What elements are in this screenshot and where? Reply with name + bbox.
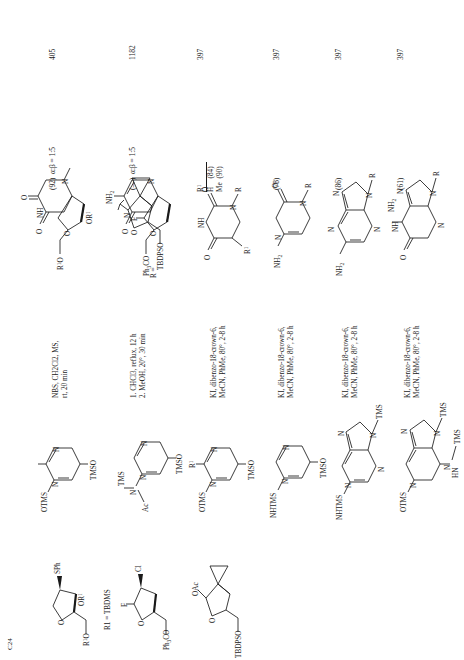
product-structure-row4: N N O NH2 R: [258, 148, 328, 278]
svg-text:O: O: [36, 229, 44, 234]
substrate-note-row1: R1 = TBDMS: [104, 589, 112, 630]
svg-text:N: N: [370, 432, 378, 438]
svg-text:O: O: [58, 620, 66, 625]
svg-text:N: N: [338, 430, 346, 436]
svg-text:NH2: NH2: [106, 191, 115, 204]
svg-text:NH2: NH2: [388, 199, 397, 212]
substrate-structure-row3: O TBDPSO OAc: [196, 528, 262, 646]
svg-text:TMS: TMS: [454, 429, 462, 444]
svg-text:TBDPSO: TBDPSO: [235, 630, 243, 658]
svg-text:HN: HN: [452, 467, 460, 478]
conditions-row1: NBS, CH2Cl2, MS, rt, 20 min: [52, 341, 71, 398]
svg-text:N: N: [444, 464, 452, 470]
svg-text:O: O: [209, 618, 217, 623]
yield-row6: (61): [396, 178, 405, 190]
svg-text:N: N: [438, 222, 446, 228]
svg-text:R: R: [369, 173, 377, 178]
svg-text:O: O: [21, 195, 29, 200]
svg-text:N: N: [53, 446, 61, 452]
ref-row5: 397: [334, 49, 343, 60]
subtable-yield-value: (90): [216, 162, 225, 178]
svg-text:R1: R1: [188, 460, 198, 468]
svg-text:OTMS: OTMS: [41, 492, 49, 512]
svg-text:TMSO: TMSO: [248, 460, 256, 480]
svg-text:OTMS: OTMS: [199, 492, 207, 512]
subtable-r1-value: H: [207, 178, 217, 192]
svg-text:O: O: [131, 230, 139, 235]
series-label: C24: [6, 638, 14, 650]
svg-text:TMSO: TMSO: [90, 460, 98, 480]
substrate-structure-row1: O R1O SPh OR1: [40, 534, 102, 646]
svg-text:TMS: TMS: [118, 471, 126, 486]
svg-text:R1: R1: [243, 246, 253, 254]
svg-text:Cl: Cl: [135, 565, 143, 572]
conditions-row6: KI, dibenzo-18-crown-6, MeCN, PhMe, 80°,…: [404, 325, 423, 398]
svg-text:N: N: [283, 444, 291, 450]
svg-text:R1O: R1O: [56, 257, 66, 270]
svg-text:R: R: [433, 171, 441, 176]
svg-text:NHTMS: NHTMS: [270, 493, 278, 518]
svg-text:N: N: [328, 226, 336, 232]
svg-text:OR1: OR1: [85, 211, 95, 224]
product-structure-row1: NH N O O O OR1 R1O: [24, 128, 112, 278]
ref-row6: 397: [396, 49, 405, 60]
ref-row2: 1182: [128, 45, 137, 60]
ref-row4: 397: [272, 49, 281, 60]
svg-text:Ac: Ac: [142, 504, 150, 512]
conditions-row4: KI, dibenzo-18-crown-6, MeCN, PhMe, 80°,…: [278, 325, 297, 398]
conditions-row3: KI, dibenzo-18-crown-6, MeCN, PhMe, 80°,…: [210, 325, 229, 398]
svg-text:N: N: [374, 226, 382, 232]
subtable-row: H (84): [207, 162, 217, 192]
conditions-row5: KI, dibenzo-18-crown-6, MeCN, PhMe, 80°,…: [342, 325, 361, 398]
conditions-row2: 1. CHCl3, reflux, 12 h 2. MeOH, 20°, 30 …: [130, 333, 149, 398]
svg-text:N: N: [333, 190, 341, 196]
svg-text:N: N: [378, 466, 386, 472]
svg-text:TMS: TMS: [376, 404, 384, 419]
svg-text:R: R: [305, 183, 313, 188]
reagent-structure-row4: N N NHTMS TMSO: [262, 408, 328, 514]
ref-row3: 397: [196, 49, 205, 60]
reagent-structure-row3: N N OTMS R1 TMSO: [192, 408, 258, 514]
svg-text:R: R: [235, 187, 243, 192]
subtable-header-r1: R1: [196, 178, 207, 192]
svg-text:NH: NH: [198, 218, 206, 228]
svg-text:N: N: [366, 192, 374, 198]
svg-text:O: O: [138, 621, 146, 626]
svg-text:N: N: [211, 446, 219, 452]
svg-text:OTMS: OTMS: [400, 492, 408, 512]
svg-text:O: O: [204, 255, 212, 260]
svg-text:F: F: [121, 603, 129, 607]
subtable-header-yield: [196, 162, 207, 178]
svg-text:N: N: [141, 440, 149, 446]
svg-text:TMSO: TMSO: [176, 454, 184, 474]
yield-subtable-row3: R1 H (84) Me (90): [196, 162, 225, 192]
subtable-r1-value: Me: [216, 178, 225, 192]
r-definition-structure: O TBDPSO: [118, 136, 172, 256]
subtable-yield-value: (84): [207, 162, 217, 178]
svg-text:NHTMS: NHTMS: [336, 495, 344, 520]
yield-row1: (92) α:β = 1:5: [48, 147, 57, 190]
product-structure-row6: NH N O NH2 N N R: [382, 138, 458, 278]
svg-text:N: N: [430, 190, 438, 196]
svg-text:O: O: [400, 255, 408, 260]
svg-text:N: N: [401, 428, 409, 434]
subtable-row: Me (90): [216, 162, 225, 192]
svg-text:SPh: SPh: [54, 562, 62, 574]
svg-text:NH2: NH2: [336, 263, 345, 276]
reagent-structure-row1: N N OTMS TMSO: [36, 408, 100, 514]
svg-text:N: N: [300, 200, 308, 206]
svg-text:NH: NH: [392, 222, 400, 232]
substrate-structure-row2: O Ph3CO F Cl: [122, 534, 182, 646]
svg-text:TBDPSO: TBDPSO: [157, 242, 165, 270]
svg-text:N: N: [230, 204, 238, 210]
svg-text:N: N: [130, 489, 138, 495]
reagent-structure-row6: N N OTMS HN TMS N N TMS: [386, 390, 464, 514]
yield-row5: (86): [334, 178, 343, 190]
svg-text:N: N: [345, 482, 353, 488]
svg-text:OR1: OR1: [77, 593, 87, 606]
svg-text:Ph3CO: Ph3CO: [163, 630, 172, 650]
svg-text:OAc: OAc: [192, 582, 200, 596]
svg-text:NH2: NH2: [274, 255, 283, 268]
svg-text:TMS: TMS: [440, 402, 448, 417]
